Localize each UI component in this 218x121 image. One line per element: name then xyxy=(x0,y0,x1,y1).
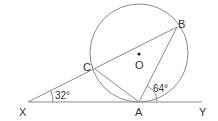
angle-label-a: 64° xyxy=(153,83,168,94)
label-c: C xyxy=(83,61,91,73)
label-y: Y xyxy=(199,106,207,118)
geometry-diagram: B C O X A Y 32° 64° xyxy=(0,0,218,121)
label-a: A xyxy=(135,106,143,118)
label-x: X xyxy=(19,106,27,118)
angle-label-x: 32° xyxy=(55,90,70,101)
center-dot xyxy=(137,52,140,55)
angle-arc-x xyxy=(51,91,53,102)
label-o: O xyxy=(135,59,144,71)
label-b: B xyxy=(178,18,185,30)
